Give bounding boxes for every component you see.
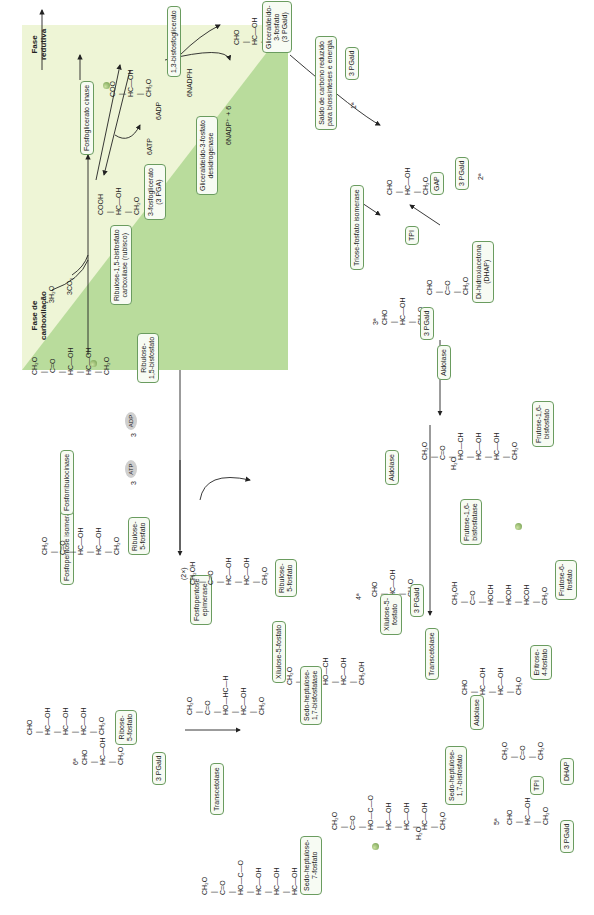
pgald-6: 3 PGald [152,752,166,785]
rubp-label: Ribulose- 1,5-bisfosfato [137,333,159,383]
dhap2-structure: CH₂O | C=O | CH₂O [500,742,545,760]
pgald-5: 3 PGald [560,820,574,853]
f6p-label: Frutose-6- fosfato [555,560,577,600]
ru5p2-label: Ribulose- 5-fosfato [275,559,297,597]
water-label: 3H₂O [48,286,55,303]
phosphate-icon [103,82,110,89]
gap-structure: CHO | HC—OH | CH₂O [385,167,430,195]
calvin-cycle-diagram: Fase de carboxilação Fase redutiva CH₂O … [0,0,594,915]
dhap-full-label: Di-hidroxiacetona (DHAP) [472,241,494,303]
bpg-structure: COO | HC—OH | CH₂O [108,69,153,97]
enzyme-tpi-full: Triose-fosfato isomerase [350,185,364,270]
water-a-label: H₂O [450,457,457,470]
water-b-label: H₂O [415,827,422,840]
e4p-label: Eritrose- 4-fosfato [530,645,552,680]
phase-carboxylation-label: Fase de carboxilação [30,291,48,340]
phosphate-icon [515,523,522,530]
enzyme-phosphoglycerate-kinase: Fosfoglicerato cinase [80,81,94,155]
enzyme-aldolase-3: Aldolase [470,695,484,730]
r5p-structure: CHO | HC—OH | HC—OH | HC—OH | CH₂O [25,707,106,735]
enzyme-tpi: TPI [405,226,419,245]
adp-count: 3 [130,433,137,437]
enzyme-aldolase-2: Aldolase [385,450,399,485]
ru5p2-structure: CH₂OH | C=O | HC—OH | HC—OH | CH₂O [188,557,269,585]
enzyme-aldolase-1: Aldolase [437,345,451,380]
pgald-4: 3 PGald [410,584,424,617]
x5p-label: Xilulose-5- fosfato [380,594,402,635]
phosphate-icon [90,360,97,367]
s7p-label: Sedo-heptulose- 7-fosfato [300,836,322,895]
pgald5-structure: CHO | HC—OH | CH₂O [505,797,550,825]
enzyme-tpi-2: TPI [530,776,544,795]
pga-structure: COOH | HC—OH | CH₂O [96,187,141,215]
enzyme-phosphoribulokinase: Fosforribulocinase [60,450,74,515]
atp-label: 6ATP [146,138,153,155]
nadph-label: 6NADPH [186,69,193,97]
f6p-structure: CH₂OH | C=O | HOCH | HCOH | HCOH | CH₂O [450,582,549,605]
rubp-structure: CH₂O | C=O | HC—OH | HC—OH | CH₂O [30,347,111,375]
pgald3-structure: CHO | HC—OH | CH₂O [380,297,425,325]
enzyme-rubisco: Ribulose-1,5-bisfosfato carboxilase (rub… [110,225,132,305]
pgald-3: 3 PGald [420,307,434,340]
phosphate-icon [372,843,379,850]
x5p-structure: CH₂O | C=O | HO—CH | HC—OH | CH₂OH [285,657,366,685]
nadp-label: 6NADP⁺ + 6 [225,106,233,145]
enzyme-sbpase: Sedo-heptulose- 1,7-bisfosfatase [300,666,322,725]
pga-label: 3-fosfoglicerato (3 PGA) [144,164,166,220]
co2-label: 3CO₂ [66,278,73,295]
ordinal-1: 1ª [350,103,357,109]
gap-label: GAP [430,172,444,195]
sbp-structure: CH₂O | C=O | HO—C—O | HC—OH | HC—OH | HC… [330,795,447,830]
e4p-structure: CHO | HC—OH | HC—OH | CH₂O [460,667,523,695]
ordinal-6: 6ª [72,759,79,765]
x5p2-label: Xilulose-5-fosfato [272,621,286,683]
pgald-2: 3 PGald [455,157,469,190]
atp-count: 3 [130,481,137,485]
atp-icon: ATP [125,460,137,478]
fbp-structure: CH₂O | C=O | HO—CH | HC—OH | HC—OH | CH₂… [420,432,519,460]
times2-label: (2×) [180,567,187,580]
ru5p1-label: Ribulose- 5-fosfato [128,517,150,555]
enzyme-gapdh: Gliceraldeído-3-fosfato desidrogenase [196,116,218,195]
adp-label: 6ADP [155,102,162,120]
output-label: Saldo de carbono reduzido para biossínte… [315,36,337,130]
fbp-label: Frutose-1,6- bisfosfato [532,401,554,447]
r5p-label: Ribose- 5-fosfato [115,710,137,745]
adp-icon: ADP [125,412,137,430]
g3p-label: Gliceraldeído- 3-fosfato (3 PGald) [262,1,292,53]
x5p2-structure: CH₂O | C=O | HO—HC—H | HC—OH | CH₂O [185,675,266,715]
pgald-1: 3 PGald [345,47,359,80]
dhap-label: DHAP [560,758,574,785]
ordinal-4: 4ª [355,594,362,600]
bpg-label: 1,3-bisfosfoglicerato [167,6,181,77]
ru5p1-structure: CH₂O | C=O | HC—OH | HC—OH | CH₂O [40,527,121,555]
sbp-label: Sedo-heptulose- 1,7-bisfosfato [445,746,467,805]
dhap-structure: CHO | C=O | CH₂O [425,277,470,295]
enzyme-transketolase-2: Transcetolase [425,628,439,680]
phase-reduction-label: Fase redutiva [30,29,48,60]
ordinal-5: 5ª [493,819,500,825]
enzyme-fbpase: Frutose-1,6- bisfosfatase [460,499,482,545]
ordinal-3: 3ª [372,319,379,325]
ordinal-2: 2ª [477,174,484,180]
enzyme-transketolase-1: Transcetolase [210,763,224,815]
pgald4-structure: CHO | HC—OH | CH₂O [370,569,415,597]
